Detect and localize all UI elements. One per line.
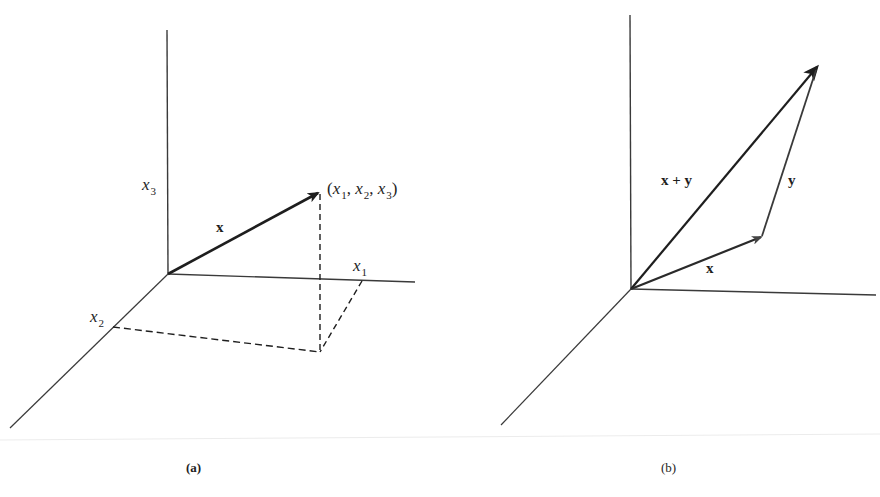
vector-x-arrow	[168, 193, 318, 274]
axis-depth-b	[501, 289, 631, 425]
panel-b-drawing	[501, 15, 876, 425]
label-vector-y: y	[788, 173, 796, 188]
axis-x2	[10, 274, 168, 428]
label-vector-sum: x + y	[661, 173, 692, 188]
label-axis-x2: x2	[90, 308, 104, 325]
axis-x3	[167, 30, 168, 274]
panel-a-drawing	[10, 30, 415, 428]
label-vector-x-a: x	[216, 220, 224, 235]
label-axis-x3: x3	[142, 176, 156, 193]
projection-x2	[113, 327, 320, 352]
vector-y-arrow	[762, 70, 816, 236]
label-point-coordinates: (x1, x2, x3)	[327, 180, 397, 197]
vector-x-b-arrow	[631, 237, 761, 289]
vector-figure: x3 x1 x2 x (x1, x2, x3) (a) x + y y x (b…	[0, 0, 880, 497]
figure-drawing	[0, 0, 880, 497]
caption-panel-b: (b)	[661, 461, 676, 474]
axis-x1	[168, 274, 415, 282]
axis-vertical-b	[630, 15, 631, 289]
caption-panel-a: (a)	[186, 461, 201, 474]
page-baseline	[0, 434, 880, 440]
projection-x1	[320, 281, 362, 352]
axis-horizontal-b	[631, 289, 876, 295]
label-vector-x-b: x	[706, 261, 714, 276]
label-axis-x1: x1	[353, 257, 367, 274]
